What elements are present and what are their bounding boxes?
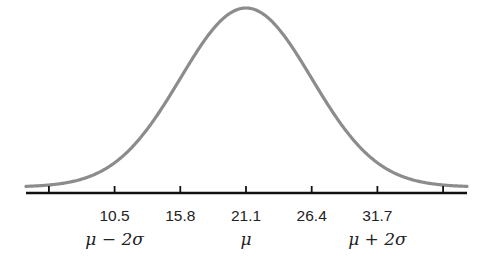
tick-label: 31.7: [362, 207, 392, 224]
bell-curve: [26, 8, 467, 186]
sigma-label: μ − 2σ: [85, 229, 144, 249]
sigma-labels: μ − 2σμμ + 2σ: [85, 229, 407, 249]
tick-label: 26.4: [297, 207, 328, 224]
tick-label: 21.1: [231, 207, 261, 224]
tick-label: 10.5: [100, 207, 130, 224]
sigma-label: μ + 2σ: [348, 229, 407, 249]
tick-label: 15.8: [165, 207, 195, 224]
normal-distribution-chart: 10.515.821.126.431.7 μ − 2σμμ + 2σ: [0, 0, 481, 260]
x-axis-tick-labels: 10.515.821.126.431.7: [100, 207, 393, 224]
sigma-label: μ: [240, 229, 251, 249]
